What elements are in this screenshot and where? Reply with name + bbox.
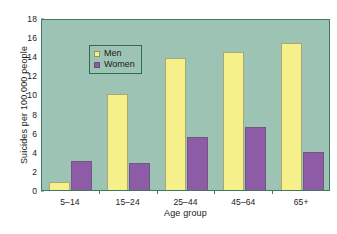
y-tick-label: 6: [32, 129, 37, 139]
y-tick-label: 10: [27, 90, 37, 100]
bar-men: [281, 43, 302, 190]
bar-group: [273, 20, 331, 190]
legend-swatch-women-icon: [94, 62, 100, 68]
x-tick-mark: [214, 191, 215, 194]
bar-women: [303, 152, 324, 190]
legend-label-women: Women: [104, 59, 135, 70]
legend-label-men: Men: [104, 48, 122, 59]
y-tick-label: 2: [32, 167, 37, 177]
legend-item-men: Men: [94, 48, 135, 59]
plot-area: Men Women: [41, 19, 330, 191]
bar-women: [245, 127, 266, 190]
y-axis: Suicides per 100,000 people 024681012141…: [0, 19, 41, 191]
bar-chart: Suicides per 100,000 people 024681012141…: [0, 0, 337, 234]
bar-men: [107, 94, 128, 190]
x-axis-title: Age group: [41, 208, 330, 218]
bar-men: [49, 182, 70, 190]
x-tick-label: 5–14: [60, 197, 79, 207]
legend: Men Women: [89, 45, 142, 74]
x-tick-label: 45–64: [231, 197, 255, 207]
y-tick-label: 14: [27, 52, 37, 62]
x-tick-mark: [272, 191, 273, 194]
y-tick-label: 16: [27, 33, 37, 43]
x-tick-label: 15–24: [116, 197, 140, 207]
bar-group: [158, 20, 216, 190]
legend-item-women: Women: [94, 59, 135, 70]
bar-women: [187, 137, 208, 191]
bar-women: [71, 161, 92, 190]
y-tick-label: 8: [32, 110, 37, 120]
legend-swatch-men-icon: [94, 51, 100, 57]
y-tick-label: 4: [32, 148, 37, 158]
bar-group: [215, 20, 273, 190]
bar-men: [165, 58, 186, 190]
x-tick-mark: [99, 191, 100, 194]
bars-layer: [42, 20, 329, 190]
y-axis-title: Suicides per 100,000 people: [19, 19, 29, 191]
x-tick-mark: [157, 191, 158, 194]
y-tick-label: 0: [32, 186, 37, 196]
bar-women: [129, 163, 150, 190]
x-tick-label: 65+: [294, 197, 309, 207]
y-tick-label: 18: [27, 14, 37, 24]
bar-men: [223, 52, 244, 190]
y-tick-label: 12: [27, 71, 37, 81]
x-tick-label: 25–44: [173, 197, 197, 207]
